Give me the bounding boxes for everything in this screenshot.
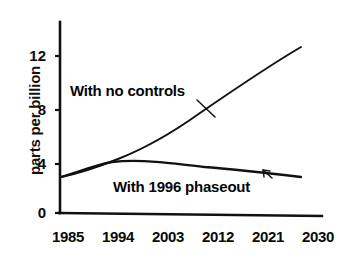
y-tick-label-4: 4 xyxy=(20,155,46,172)
series-label-phaseout: With 1996 phaseout xyxy=(113,178,250,195)
x-axis-line xyxy=(59,213,322,216)
y-tick-label-12: 12 xyxy=(20,47,46,64)
y-tick-label-0: 0 xyxy=(20,204,46,221)
x-tick-label-2030: 2030 xyxy=(293,228,343,245)
leader-line-no-controls xyxy=(197,100,215,117)
chart-plot-area xyxy=(0,0,354,263)
chart-container: parts per billion 12 8 4 0 1985 1994 200… xyxy=(0,0,354,263)
series-line-phaseout xyxy=(61,161,301,177)
series-label-no-controls: With no controls xyxy=(70,82,185,99)
x-tick-label-1994: 1994 xyxy=(93,228,143,245)
x-tick-label-2003: 2003 xyxy=(143,228,193,245)
series-line-no-controls xyxy=(61,47,301,177)
x-tick-label-2021: 2021 xyxy=(243,228,293,245)
x-tick-label-2012: 2012 xyxy=(193,228,243,245)
x-tick-label-1985: 1985 xyxy=(43,228,93,245)
y-tick-label-8: 8 xyxy=(20,101,46,118)
y-axis-title: parts per billion xyxy=(26,41,43,201)
